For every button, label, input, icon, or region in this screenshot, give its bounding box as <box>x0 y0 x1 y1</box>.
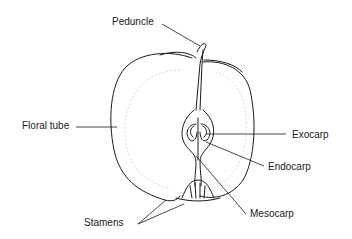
stamens-leader-1 <box>138 200 166 224</box>
endocarp-leader <box>206 142 264 166</box>
label-floral-tube: Floral tube <box>22 120 69 132</box>
seed-chamber-left <box>187 124 197 141</box>
label-exocarp: Exocarp <box>292 129 329 141</box>
calyx-shape <box>182 180 214 198</box>
label-mesocarp: Mesocarp <box>250 208 294 220</box>
stamens-leader-2 <box>138 204 184 224</box>
apple-right-lobe <box>200 62 254 198</box>
apple-left-lobe <box>111 53 192 200</box>
label-stamens: Stamens <box>84 217 123 229</box>
seed-chamber-right <box>200 124 210 141</box>
apple-diagram: Peduncle Floral tube Exocarp Endocarp Me… <box>0 0 352 239</box>
peduncle-leader <box>162 24 200 46</box>
core-outline <box>182 110 196 186</box>
label-endocarp: Endocarp <box>268 161 311 173</box>
label-peduncle: Peduncle <box>112 16 154 28</box>
